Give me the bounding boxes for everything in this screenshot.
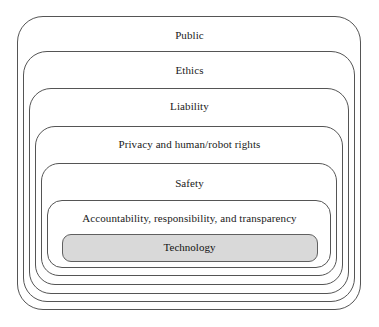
layer-label-public: Public xyxy=(0,29,379,42)
layer-label-liability: Liability xyxy=(0,100,379,113)
layer-label-accountability-responsibility-and-transparency: Accountability, responsibility, and tran… xyxy=(0,212,379,225)
layer-label-ethics: Ethics xyxy=(0,64,379,77)
layer-label-safety: Safety xyxy=(0,177,379,190)
layer-label-privacy-and-human-robot-rights: Privacy and human/robot rights xyxy=(0,138,379,151)
core-label-technology: Technology xyxy=(0,241,379,254)
nested-layers-diagram: Public Ethics Liability Privacy and huma… xyxy=(0,0,379,327)
